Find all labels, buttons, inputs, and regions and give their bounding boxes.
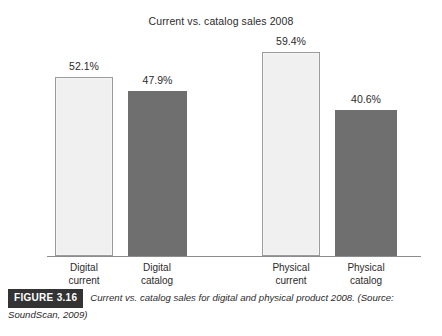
tick-label-digital-current: Digital current	[44, 261, 124, 287]
figure-caption: FIGURE 3.16Current vs. catalog sales for…	[8, 289, 436, 322]
bar-value-1: 47.9%	[128, 74, 187, 86]
tick-label-physical-catalog: Physical catalog	[326, 261, 406, 287]
figure-container: Current vs. catalog sales 2008 52.1% Dig…	[0, 0, 442, 336]
tick-label-line2: catalog	[117, 274, 197, 287]
chart-title: Current vs. catalog sales 2008	[0, 15, 442, 27]
tick-label-line2: current	[44, 274, 124, 287]
tick-label-line2: current	[251, 274, 331, 287]
bar-physical-catalog[interactable]	[335, 110, 397, 256]
tick-label-line2: catalog	[326, 274, 406, 287]
bar-value-2: 59.4%	[262, 35, 320, 47]
figure-number-badge: FIGURE 3.16	[8, 289, 83, 308]
bar-physical-current[interactable]	[262, 52, 320, 256]
bar-value-3: 40.6%	[335, 93, 397, 105]
bar-digital-current[interactable]	[55, 77, 113, 256]
tick-label-line1: Digital	[143, 262, 171, 273]
tick-label-line1: Physical	[347, 262, 384, 273]
tick-label-digital-catalog: Digital catalog	[117, 261, 197, 287]
bar-digital-catalog[interactable]	[128, 91, 187, 256]
bar-chart: Current vs. catalog sales 2008 52.1% Dig…	[0, 0, 442, 286]
bar-value-0: 52.1%	[55, 60, 113, 72]
category-axis-line	[47, 256, 421, 257]
tick-label-line1: Physical	[272, 262, 309, 273]
tick-label-line1: Digital	[70, 262, 98, 273]
tick-label-physical-current: Physical current	[251, 261, 331, 287]
